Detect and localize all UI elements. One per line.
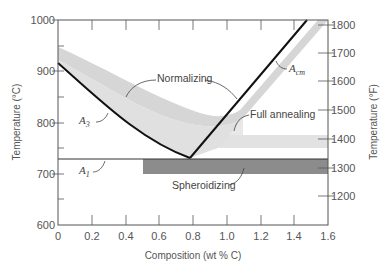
a3-arrow bbox=[96, 113, 108, 122]
svg-text:1600: 1600 bbox=[331, 75, 355, 87]
svg-text:1.2: 1.2 bbox=[253, 230, 268, 242]
svg-text:1200: 1200 bbox=[331, 190, 355, 202]
svg-text:0: 0 bbox=[55, 230, 61, 242]
svg-text:900: 900 bbox=[37, 65, 55, 77]
x-tick-labels: 0 0.2 0.4 0.6 0.8 1.0 1.2 1.4 1.6 bbox=[55, 230, 336, 242]
svg-text:0.6: 0.6 bbox=[151, 230, 166, 242]
acm-label: Acm bbox=[288, 62, 305, 77]
left-tick-labels: 1000 900 800 700 600 bbox=[31, 14, 55, 231]
svg-text:0.2: 0.2 bbox=[84, 230, 99, 242]
svg-text:0.4: 0.4 bbox=[118, 230, 133, 242]
svg-text:700: 700 bbox=[37, 168, 55, 180]
svg-text:1000: 1000 bbox=[31, 14, 55, 26]
a1-arrow bbox=[93, 161, 105, 172]
svg-text:1.6: 1.6 bbox=[320, 230, 335, 242]
svg-text:1400: 1400 bbox=[331, 133, 355, 145]
full-annealing-label: Full annealing bbox=[250, 108, 316, 120]
svg-text:0.8: 0.8 bbox=[185, 230, 200, 242]
svg-text:1300: 1300 bbox=[331, 162, 355, 174]
heat-treatment-chart: 1000 900 800 700 600 1800 1700 1600 1500… bbox=[0, 0, 390, 269]
spheroidizing-band bbox=[143, 159, 328, 174]
y-axis-title-right: Temperature (°F) bbox=[368, 84, 379, 160]
right-tick-labels: 1800 1700 1600 1500 1400 1300 1200 bbox=[331, 19, 355, 202]
svg-text:800: 800 bbox=[37, 117, 55, 129]
top-ticks bbox=[92, 20, 294, 30]
y-axis-title-left: Temperature (°C) bbox=[11, 84, 22, 161]
svg-text:1700: 1700 bbox=[331, 47, 355, 59]
bottom-ticks bbox=[92, 215, 294, 225]
svg-text:1800: 1800 bbox=[331, 19, 355, 31]
spheroidizing-label: Spheroidizing bbox=[172, 179, 236, 191]
full-annealing-band-hypereutectoid bbox=[218, 135, 328, 148]
normalizing-label: Normalizing bbox=[157, 72, 213, 84]
svg-text:600: 600 bbox=[37, 219, 55, 231]
svg-text:1.4: 1.4 bbox=[286, 230, 301, 242]
svg-text:1.0: 1.0 bbox=[219, 230, 234, 242]
svg-text:1500: 1500 bbox=[331, 104, 355, 116]
a1-label: A1 bbox=[78, 164, 90, 179]
x-axis-title: Composition (wt % C) bbox=[145, 250, 242, 261]
a3-label: A3 bbox=[78, 114, 90, 129]
